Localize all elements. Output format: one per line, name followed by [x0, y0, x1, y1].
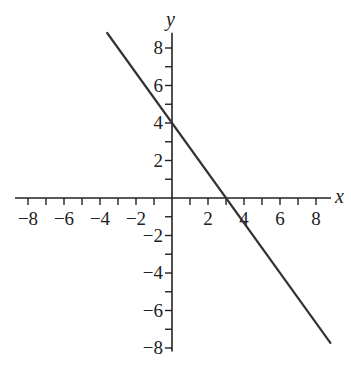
- y-tick-label: 8: [154, 37, 164, 58]
- data-line: [107, 33, 330, 343]
- y-tick-label: −8: [143, 337, 163, 358]
- y-tick-label: 4: [154, 112, 164, 133]
- x-tick-label: −8: [18, 208, 38, 229]
- y-axis-label: y: [164, 8, 175, 31]
- data-lines: [107, 33, 330, 343]
- y-tick-label: 6: [154, 75, 164, 96]
- line-graph: −8−6−4−224688642−2−4−6−8 x y: [0, 0, 351, 373]
- y-tick-label: −4: [143, 262, 164, 283]
- y-tick-label: −6: [143, 300, 163, 321]
- x-tick-label: −6: [54, 208, 74, 229]
- x-tick-label: 6: [275, 208, 285, 229]
- x-axis-label: x: [334, 185, 344, 207]
- x-tick-label: 8: [311, 208, 321, 229]
- axes: [15, 33, 331, 352]
- y-tick-label: −2: [143, 225, 163, 246]
- x-tick-label: 2: [203, 208, 213, 229]
- x-tick-label: −4: [90, 208, 111, 229]
- y-tick-label: 2: [154, 150, 164, 171]
